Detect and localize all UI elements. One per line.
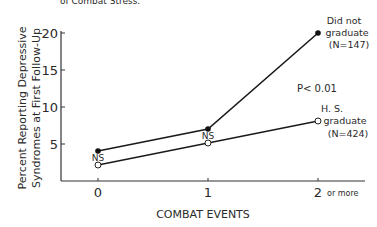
series-hs-graduate	[95, 118, 321, 168]
x-tick-suffix: or more	[327, 189, 359, 198]
annotation-ns: NS	[92, 153, 105, 163]
svg-text:Did not: Did not	[327, 15, 362, 26]
y-tick-label: 15	[41, 63, 58, 78]
svg-text:graduate: graduate	[323, 115, 366, 126]
data-point	[315, 118, 321, 124]
caption-fragment: of Combat Stress.	[60, 0, 140, 6]
label-hs-graduate: H. S. graduate (N=424)	[321, 103, 368, 139]
svg-text:(N=147): (N=147)	[329, 39, 370, 50]
y-tick-label: 10	[41, 100, 58, 115]
x-tick-label: 1	[204, 185, 212, 200]
y-tick-label: 5	[50, 137, 58, 152]
y-axis-label-line1: Percent Reporting Depressive	[16, 26, 29, 189]
annotation-ns: NS	[202, 131, 215, 141]
svg-text:H. S.: H. S.	[321, 103, 343, 114]
y-axis-label: Percent Reporting Depressive Syndromes a…	[16, 26, 43, 189]
annotation-p-value: P< 0.01	[297, 83, 337, 94]
y-tick-label: 20	[41, 26, 58, 41]
svg-text:graduate: graduate	[325, 27, 368, 38]
x-tick-label: 0	[94, 185, 102, 200]
label-did-not-graduate: Did not graduate (N=147)	[325, 15, 369, 50]
svg-text:(N=424): (N=424)	[328, 128, 369, 139]
data-point	[315, 30, 321, 36]
x-tick-label: 2	[314, 185, 322, 200]
chart: of Combat Stress. Percent Reporting Depr…	[0, 0, 377, 227]
x-axis-label: COMBAT EVENTS	[156, 208, 250, 221]
